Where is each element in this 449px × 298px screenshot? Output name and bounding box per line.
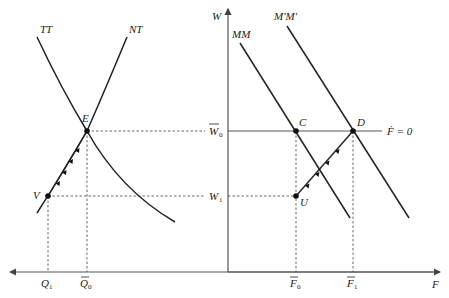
q0-bar-label: Q 0 xyxy=(80,277,92,291)
mpmp-label: M′M′ xyxy=(273,10,298,22)
tt-curve xyxy=(37,37,175,222)
svg-text:Q: Q xyxy=(41,277,49,289)
svg-text:F: F xyxy=(289,277,297,289)
q1-label: Q 1 xyxy=(41,277,53,291)
svg-text:F: F xyxy=(346,277,354,289)
axes xyxy=(10,9,440,272)
point-d xyxy=(350,128,356,134)
f0-bar-label: F 0 xyxy=(289,277,301,291)
w0-bar-label: W 0 xyxy=(209,124,223,139)
svg-text:1: 1 xyxy=(49,283,53,291)
nt-label: NT xyxy=(128,23,143,35)
tt-label: TT xyxy=(40,23,53,35)
point-u xyxy=(293,193,299,199)
diagram-canvas: TT NT MM M′M′ E V C D U W F Ḟ = 0 W 0 W … xyxy=(0,0,449,298)
svg-text:W: W xyxy=(209,190,219,202)
v-label: V xyxy=(33,189,41,201)
f-axis-label: F xyxy=(431,278,439,290)
svg-text:0: 0 xyxy=(219,131,223,139)
w-axis-label: W xyxy=(212,10,222,22)
svg-text:1: 1 xyxy=(219,196,223,204)
c-label: C xyxy=(299,116,307,128)
f1-bar-label: F 1 xyxy=(346,277,358,291)
point-e xyxy=(84,128,90,134)
svg-text:0: 0 xyxy=(297,283,301,291)
svg-text:0: 0 xyxy=(88,283,92,291)
u-label: U xyxy=(300,196,309,208)
f-dot-zero-label: Ḟ = 0 xyxy=(386,125,413,137)
svg-text:Q: Q xyxy=(80,277,88,289)
point-c xyxy=(293,128,299,134)
adjustment-path-left xyxy=(48,131,87,196)
mm-label: MM xyxy=(231,28,251,40)
svg-text:W: W xyxy=(209,125,219,137)
point-v xyxy=(45,193,51,199)
e-label: E xyxy=(81,112,89,124)
d-label: D xyxy=(356,116,365,128)
svg-text:1: 1 xyxy=(354,283,358,291)
adjustment-path-right xyxy=(296,131,353,196)
w1-label: W 1 xyxy=(209,190,223,204)
